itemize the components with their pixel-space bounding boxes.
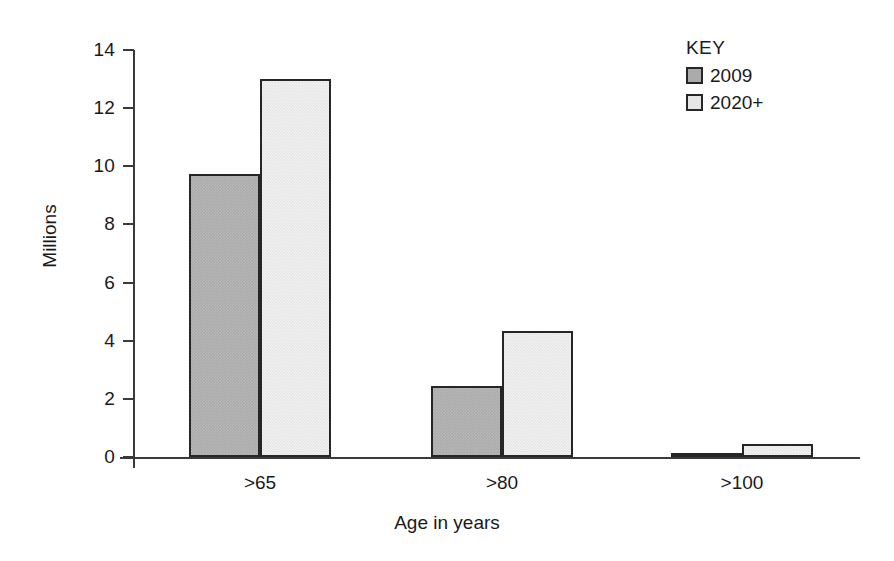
x-tick-label: >80 bbox=[422, 472, 582, 494]
legend-item-2009: 2009 bbox=[686, 62, 856, 89]
y-axis-title: Millions bbox=[39, 166, 61, 306]
x-axis-line bbox=[120, 457, 860, 459]
legend-item-2020: 2020+ bbox=[686, 89, 856, 116]
y-tick bbox=[123, 49, 134, 51]
y-tick bbox=[123, 398, 134, 400]
bar-2009-gt80 bbox=[431, 386, 502, 457]
legend-swatch-2009-icon bbox=[686, 67, 703, 84]
bar-2020plus-gt80 bbox=[502, 331, 573, 457]
y-tick bbox=[123, 165, 134, 167]
legend-label-2009: 2009 bbox=[710, 65, 752, 87]
bar-2020plus-gt100 bbox=[742, 444, 813, 457]
y-tick bbox=[123, 282, 134, 284]
y-tick-label: 14 bbox=[15, 39, 115, 61]
y-tick bbox=[123, 340, 134, 342]
bar-chart: 02468101214 Millions >65>80>100 Age in y… bbox=[0, 0, 894, 561]
bar-2020plus-gt65 bbox=[260, 79, 331, 457]
y-tick-label: 10 bbox=[15, 155, 115, 177]
legend-title: KEY bbox=[686, 36, 856, 60]
y-tick-label: 6 bbox=[15, 272, 115, 294]
legend: KEY 2009 2020+ bbox=[686, 36, 856, 116]
y-tick bbox=[123, 107, 134, 109]
x-axis-title: Age in years bbox=[0, 512, 894, 534]
y-tick-label: 8 bbox=[15, 213, 115, 235]
legend-label-2020: 2020+ bbox=[710, 92, 763, 114]
x-tick-label: >65 bbox=[180, 472, 340, 494]
x-tick-label: >100 bbox=[662, 472, 822, 494]
y-tick-label: 2 bbox=[15, 388, 115, 410]
legend-swatch-2020-icon bbox=[686, 94, 703, 111]
y-tick-label: 12 bbox=[15, 97, 115, 119]
origin-tick bbox=[133, 457, 135, 468]
bar-2009-gt65 bbox=[189, 174, 260, 457]
y-tick bbox=[123, 456, 134, 458]
y-tick-label: 4 bbox=[15, 330, 115, 352]
y-tick bbox=[123, 223, 134, 225]
y-tick-label: 0 bbox=[15, 446, 115, 468]
bar-2009-gt100 bbox=[671, 453, 742, 457]
